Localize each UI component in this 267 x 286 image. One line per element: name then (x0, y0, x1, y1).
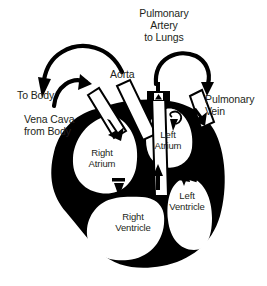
label-left-atrium: Left Atrium (145, 130, 191, 151)
label-to-body: To Body (17, 90, 54, 102)
label-left-ventricle: Left Ventricle (162, 191, 212, 212)
label-aorta: Aorta (110, 69, 135, 81)
heart-diagram: Pulmonary Artery to Lungs Aorta To Body … (0, 0, 267, 286)
label-pulmonary-artery: Pulmonary Artery to Lungs (122, 8, 206, 43)
label-pulmonary-vein: Pulmonary Vein (205, 94, 254, 118)
arc-vena-cava-arrow (54, 74, 92, 106)
label-right-ventricle: Right Ventricle (104, 212, 162, 233)
arc-pulmonary-arrow (156, 53, 214, 96)
label-right-atrium: Right Atrium (76, 148, 128, 169)
pulmonary-valve-marker (147, 82, 170, 101)
label-vena-cava: Vena Cava from Body (24, 114, 74, 138)
